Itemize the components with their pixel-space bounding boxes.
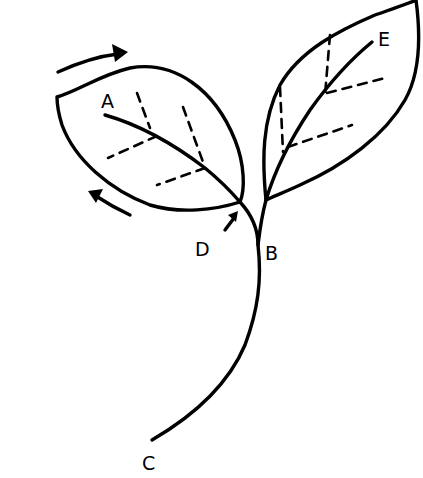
left-leaf-vein	[137, 93, 150, 128]
right-leaf-outline	[264, 0, 419, 200]
top-arrow-shaft	[58, 54, 118, 72]
label-b: B	[265, 242, 278, 264]
label-e: E	[378, 28, 390, 50]
left-leaf-vein	[157, 168, 205, 185]
label-c: C	[142, 452, 155, 474]
plant-diagram: A B C D E	[0, 0, 423, 478]
label-d: D	[195, 238, 210, 260]
right-leaf-vein	[327, 78, 385, 93]
left-leaf-vein	[108, 136, 157, 158]
right-leaf-vein	[280, 87, 283, 152]
junction-arrow-shaft	[225, 218, 234, 230]
right-petiole	[258, 200, 266, 245]
bottom-arrow-shaft	[96, 196, 130, 215]
label-a: A	[101, 90, 114, 112]
top-arrow-head	[112, 44, 128, 62]
left-leaf-midrib	[105, 115, 240, 202]
